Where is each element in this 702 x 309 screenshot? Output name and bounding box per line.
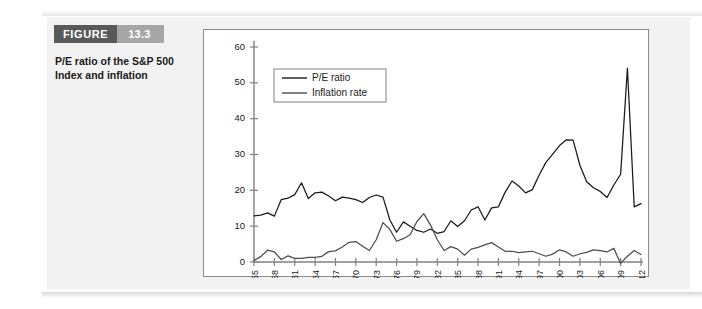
y-axis-tick-label: 0 (240, 256, 245, 267)
chart-frame: 0102030405060 19551958196119641967197019… (203, 29, 649, 277)
y-axis-tick-label: 10 (234, 220, 245, 231)
x-axis-tick-label: 2012 (637, 270, 647, 278)
figure-page: FIGURE 13.3 P/E ratio of the S&P 500 Ind… (0, 0, 702, 309)
x-axis-tick-label: 1955 (250, 270, 260, 278)
x-axis-tick-label: 2006 (596, 270, 606, 278)
x-axis-tick-label: 1979 (412, 270, 422, 278)
figure-caption-line-2: Index and inflation (55, 68, 195, 82)
page-right-edge (690, 19, 695, 291)
x-axis-tick-label: 2009 (616, 270, 626, 278)
x-axis-tick-label: 2000 (555, 270, 565, 278)
x-axis-tick-label: 1970 (351, 270, 361, 278)
x-axis-tick-label: 1964 (311, 270, 321, 278)
y-axis-tick-label: 30 (234, 148, 245, 159)
figure-caption-line-1: P/E ratio of the S&P 500 (55, 54, 195, 68)
page-top-band (42, 11, 702, 16)
chart-legend: P/E ratioInflation rate (274, 69, 386, 102)
x-axis-tick-label: 1973 (372, 270, 382, 278)
figure-tag-label: FIGURE (54, 25, 117, 43)
x-axis-tick-label: 1985 (453, 270, 463, 278)
legend-label-pe-ratio: P/E ratio (312, 72, 351, 83)
y-axis: 0102030405060 (234, 41, 258, 267)
y-axis-tick-label: 20 (234, 184, 245, 195)
x-axis-tick-label: 1997 (535, 270, 545, 278)
x-axis-tick-label: 1988 (474, 270, 484, 278)
x-axis-tick-label: 2003 (575, 270, 585, 278)
x-axis-tick-label: 1991 (494, 270, 504, 278)
x-axis-tick-label: 1976 (392, 270, 402, 278)
chart-plot-area: 0102030405060 19551958196119641967197019… (204, 30, 650, 278)
series-line-inflation-rate (254, 214, 641, 264)
x-axis-tick-label: 1961 (290, 270, 300, 278)
x-axis-tick-label: 1994 (514, 270, 524, 278)
x-axis: 1955195819611964196719701973197619791982… (250, 258, 647, 278)
line-chart-svg: 0102030405060 19551958196119641967197019… (204, 30, 650, 278)
y-axis-tick-label: 60 (234, 41, 245, 52)
x-axis-tick-label: 1982 (433, 270, 443, 278)
figure-label-row: FIGURE 13.3 (54, 25, 164, 43)
page-bottom-band (42, 292, 702, 298)
y-axis-tick-label: 40 (234, 112, 245, 123)
y-axis-tick-label: 50 (234, 76, 245, 87)
figure-number: 13.3 (117, 25, 164, 43)
legend-label-inflation-rate: Inflation rate (312, 87, 367, 98)
x-axis-tick-label: 1958 (270, 270, 280, 278)
x-axis-tick-label: 1967 (331, 270, 341, 278)
figure-caption: P/E ratio of the S&P 500 Index and infla… (55, 54, 195, 82)
